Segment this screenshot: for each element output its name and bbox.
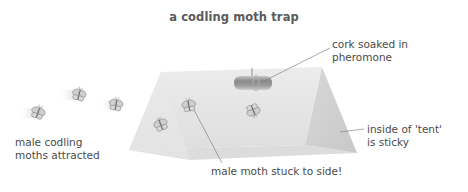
moths-attracted-label: male codling moths attracted	[15, 136, 100, 162]
moths-attracted-line-2: moths attracted	[15, 149, 100, 162]
cork-label-line-2: pheromone	[332, 51, 408, 64]
sticky-label-line-1: inside of 'tent'	[367, 123, 442, 136]
sticky-label: inside of 'tent' is sticky	[367, 123, 442, 149]
trap-illustration	[0, 0, 468, 192]
cork-label: cork soaked in pheromone	[332, 38, 408, 64]
stuck-label: male moth stuck to side!	[211, 165, 342, 178]
cork-label-line-1: cork soaked in	[332, 38, 408, 51]
cork-icon	[234, 75, 272, 91]
sticky-label-line-2: is sticky	[367, 136, 442, 149]
moths-attracted-line-1: male codling	[15, 136, 100, 149]
moth-icon	[107, 96, 125, 112]
